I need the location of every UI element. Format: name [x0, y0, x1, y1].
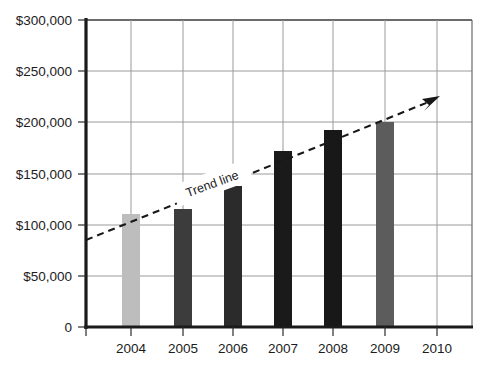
bar-2009 [376, 122, 394, 327]
bar-2006 [224, 186, 242, 327]
ytick-label-200000: $200,000 [16, 115, 72, 130]
xtick-label-2009: 2009 [370, 341, 400, 356]
bar-2005 [174, 209, 192, 327]
xtick-label-2010: 2010 [422, 341, 452, 356]
ytick-label-100000: $100,000 [16, 218, 72, 233]
chart-canvas: $300,000 $250,000 $200,000 $150,000 $100… [0, 0, 500, 369]
xtick-label-2004: 2004 [116, 341, 147, 356]
ytick-label-50000: $50,000 [23, 269, 72, 284]
x-axis-labels: 2004 2005 2006 2007 2008 2009 2010 [116, 341, 452, 356]
bar-chart-figure: $300,000 $250,000 $200,000 $150,000 $100… [0, 0, 500, 369]
xtick-label-2006: 2006 [218, 341, 248, 356]
xtick-label-2007: 2007 [268, 341, 298, 356]
ytick-label-250000: $250,000 [16, 64, 72, 79]
bar-2007 [274, 151, 292, 327]
bar-2008 [324, 130, 342, 327]
ytick-label-150000: $150,000 [16, 167, 72, 182]
y-axis-labels: $300,000 $250,000 $200,000 $150,000 $100… [16, 13, 72, 335]
xtick-label-2005: 2005 [168, 341, 198, 356]
ytick-label-300000: $300,000 [16, 13, 72, 28]
bar-2004 [122, 214, 140, 327]
ytick-label-0: 0 [64, 320, 72, 335]
xtick-label-2008: 2008 [318, 341, 348, 356]
